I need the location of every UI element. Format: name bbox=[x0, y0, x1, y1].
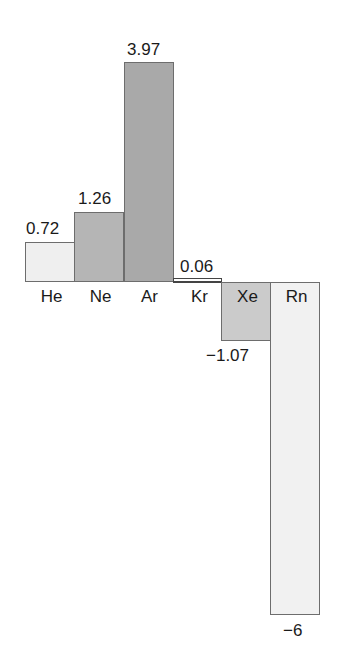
category-label-rn: Rn bbox=[272, 288, 321, 305]
category-label-kr: Kr bbox=[175, 288, 224, 305]
value-label-kr: 0.06 bbox=[180, 258, 213, 275]
value-label-rn: −6 bbox=[283, 622, 302, 639]
zero-axis-line bbox=[173, 281, 222, 282]
bar-ne bbox=[74, 212, 124, 282]
category-label-xe: Xe bbox=[223, 288, 272, 305]
bar-he bbox=[25, 242, 75, 282]
category-label-ar: Ar bbox=[125, 288, 174, 305]
category-label-he: He bbox=[27, 288, 76, 305]
bar-rn bbox=[270, 282, 320, 615]
value-label-ne: 1.26 bbox=[78, 190, 111, 207]
value-label-xe: −1.07 bbox=[206, 347, 249, 364]
bar-ar bbox=[124, 62, 174, 282]
value-label-he: 0.72 bbox=[26, 220, 59, 237]
category-label-ne: Ne bbox=[76, 288, 125, 305]
value-label-ar: 3.97 bbox=[127, 41, 160, 58]
